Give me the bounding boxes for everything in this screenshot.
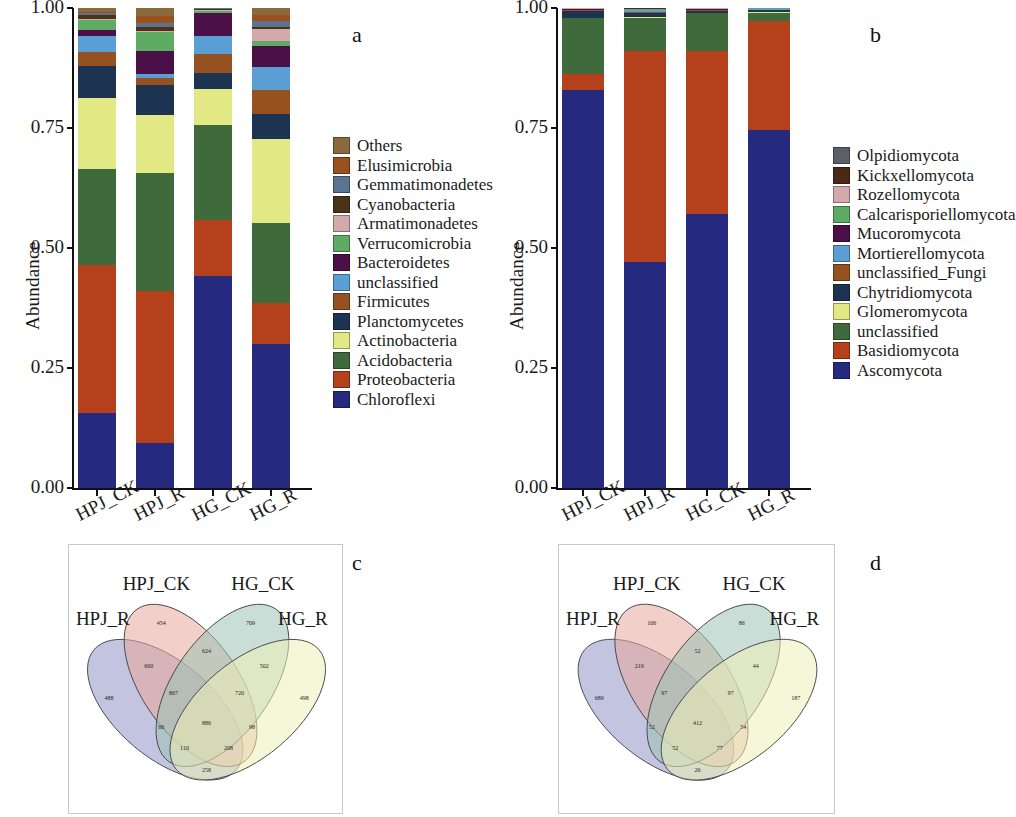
y-tick-label: 0.25 <box>486 356 548 378</box>
venn-region-count: 219 <box>635 663 644 669</box>
legend-label: Elusimicrobia <box>357 157 452 174</box>
legend-item: Cyanobacteria <box>333 195 493 215</box>
venn-svg: 4884547094986006245028677208866698110208… <box>69 545 344 815</box>
bar-segment <box>252 303 290 344</box>
legend-color-swatch <box>833 225 850 242</box>
legend-label: Cyanobacteria <box>357 196 455 213</box>
y-tick-mark <box>551 127 557 129</box>
legend-color-swatch <box>833 342 850 359</box>
venn-region-count: 54 <box>740 724 746 730</box>
legend-label: Chloroflexi <box>357 391 435 408</box>
legend-item: Gemmatimonadetes <box>333 175 493 195</box>
bar-segment <box>78 413 116 488</box>
venn-region-count: 52 <box>695 648 701 654</box>
venn-region-count: 600 <box>144 663 153 669</box>
legend-label: Ascomycota <box>857 362 942 379</box>
stacked-bar <box>136 8 174 488</box>
legend-color-swatch <box>333 274 350 291</box>
venn-region-count: 208 <box>224 745 233 751</box>
bar-segment <box>252 46 290 67</box>
bar-segment <box>136 173 174 291</box>
legend-label: Kickxellomycota <box>857 167 974 184</box>
panel-d-venn-diagram: 68910686187219524497974125254527726 <box>559 545 834 815</box>
bar-segment <box>194 36 232 54</box>
y-tick-mark <box>551 487 557 489</box>
y-tick-mark <box>67 7 73 9</box>
legend-label: Proteobacteria <box>357 371 455 388</box>
legend-label: Glomeromycota <box>857 303 967 320</box>
bar-segment <box>78 30 116 37</box>
y-tick-mark <box>67 487 73 489</box>
legend-item: Firmicutes <box>333 292 493 312</box>
y-tick-mark <box>551 7 557 9</box>
venn-region-count: 624 <box>202 648 211 654</box>
legend-label: Chytridiomycota <box>857 284 972 301</box>
venn-region-count: 867 <box>169 690 178 696</box>
legend-color-swatch <box>333 352 350 369</box>
bar-segment <box>136 291 174 444</box>
bar-segment <box>136 85 174 115</box>
bar-segment <box>748 13 790 21</box>
panel-b-legend: OlpidiomycotaKickxellomycotaRozellomycot… <box>833 146 1016 380</box>
y-tick-mark <box>67 127 73 129</box>
y-tick-label: 1.00 <box>2 0 64 18</box>
panel-d-letter: d <box>870 550 881 576</box>
bar-segment <box>624 51 666 262</box>
legend-color-swatch <box>333 157 350 174</box>
legend-item: Calcarisporiellomycota <box>833 205 1016 225</box>
venn-region-count: 689 <box>595 695 604 701</box>
panel-b-fungal-phyla: b Abundance 1.000.750.500.250.00 HPJ_CKH… <box>490 0 1015 540</box>
bar-segment <box>686 13 728 51</box>
legend-color-swatch <box>333 313 350 330</box>
venn-region-count: 86 <box>739 620 745 626</box>
legend-color-swatch <box>333 235 350 252</box>
panel-d-venn-fungi: d 68910686187219524497974125254527726 HP… <box>490 540 1015 817</box>
legend-item: Kickxellomycota <box>833 166 1016 186</box>
bar-segment <box>686 214 728 488</box>
legend-item: Elusimicrobia <box>333 156 493 176</box>
panel-a-bacterial-phyla: a Abundance 1.000.750.500.250.00 HPJ_CKH… <box>0 0 500 540</box>
legend-item: Bacteroidetes <box>333 253 493 273</box>
bar-segment <box>562 11 604 18</box>
legend-color-swatch <box>833 284 850 301</box>
venn-set-label: HPJ_R <box>76 608 130 630</box>
legend-item: Ascomycota <box>833 361 1016 381</box>
panel-b-letter: b <box>870 22 881 48</box>
legend-color-swatch <box>833 245 850 262</box>
y-tick-label: 0.50 <box>486 236 548 258</box>
bar-segment <box>194 276 232 488</box>
stacked-bar <box>252 8 290 488</box>
venn-svg: 68910686187219524497974125254527726 <box>559 545 836 815</box>
venn-region-count: 720 <box>235 690 244 696</box>
legend-item: Olpidiomycota <box>833 146 1016 166</box>
bar-segment <box>78 66 116 98</box>
legend-color-swatch <box>333 332 350 349</box>
venn-set-label: HPJ_CK <box>123 573 191 595</box>
venn-set-label: HPJ_CK <box>613 573 681 595</box>
venn-set-label: HPJ_R <box>566 608 620 630</box>
stacked-bar <box>748 8 790 488</box>
y-tick-label: 0.75 <box>486 116 548 138</box>
venn-region-count: 258 <box>202 767 211 773</box>
venn-region-count: 97 <box>728 690 734 696</box>
bar-segment <box>748 21 790 130</box>
legend-label: Bacteroidetes <box>357 254 450 271</box>
panel-a-letter: a <box>352 22 362 48</box>
venn-region-count: 77 <box>717 745 723 751</box>
legend-color-swatch <box>833 167 850 184</box>
y-tick-label: 1.00 <box>486 0 548 18</box>
bar-segment <box>136 8 174 16</box>
stacked-bar <box>194 8 232 488</box>
bar-segment <box>748 130 790 488</box>
venn-region-count: 44 <box>753 663 759 669</box>
bar-segment <box>252 344 290 488</box>
venn-region-count: 709 <box>246 620 255 626</box>
venn-region-count: 110 <box>180 745 189 751</box>
venn-region-count: 106 <box>647 620 656 626</box>
bar-segment <box>78 36 116 51</box>
bar-segment <box>194 89 232 125</box>
venn-set-label: HG_CK <box>231 573 294 595</box>
legend-label: Mucoromycota <box>857 225 961 242</box>
legend-color-swatch <box>333 215 350 232</box>
